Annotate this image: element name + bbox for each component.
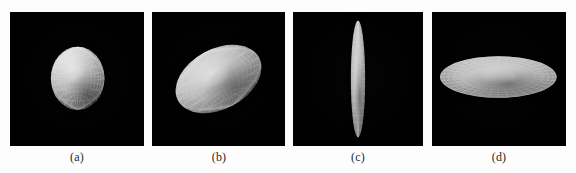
panel-caption-d: (d) [469,150,529,164]
ellipsoid-render-c [293,12,423,146]
ellipsoid-render-a [10,12,144,146]
panel-caption-a: (a) [47,150,107,164]
figure-container: (a) (b) (c) (d) [0,0,576,173]
panel-caption-b: (b) [189,150,249,164]
render-panel-d [432,12,566,146]
render-panel-c [293,12,423,146]
panel-caption-c: (c) [328,150,388,164]
ellipsoid-render-b [152,12,285,146]
ellipsoid-render-d [432,12,566,146]
render-panel-a [10,12,144,146]
render-panel-b [152,12,285,146]
